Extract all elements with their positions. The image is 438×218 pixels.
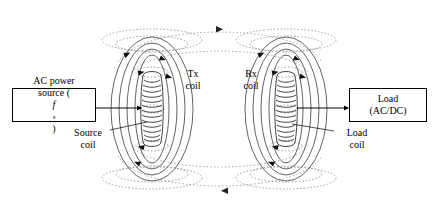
tx-solenoid-outline-left: [141, 76, 143, 142]
rx-turn-7: [276, 110, 296, 112]
tx-turn-6: [142, 105, 162, 107]
rx-turn-11: [277, 130, 295, 132]
rx-turn-9: [276, 120, 296, 122]
tx-solenoid-outline-right: [161, 76, 163, 142]
ac-power-source-line1: AC power: [33, 75, 74, 87]
rx-turn-13: [278, 139, 294, 141]
leader-lines: [110, 122, 334, 131]
tx-turn-13: [144, 139, 160, 141]
rx-field-loop-2: [253, 43, 319, 175]
rx-turn-12: [278, 135, 294, 137]
rx-coil-label-line2: coil: [236, 80, 266, 92]
tx-coil-label-line1: Tx: [178, 68, 208, 80]
tx-turn-11: [143, 130, 161, 132]
tx-turn-1: [144, 80, 160, 82]
tx-ellipse-bottom-mid: [116, 166, 188, 182]
rx-solenoid-cap-bottom: [277, 142, 295, 147]
tx-turn-3: [143, 90, 161, 92]
rx-perspective-ellipses: [236, 29, 336, 189]
load-coil-label-line2: coil: [337, 139, 377, 151]
ac-power-source-block[interactable]: AC power source (fs): [12, 88, 96, 122]
tx-inner-solenoid: [141, 72, 164, 147]
tx-arrow-bot-b: [133, 159, 141, 166]
rx-field-loop-1: [245, 37, 327, 181]
tx-turn-12: [144, 135, 160, 137]
rx-turn-1: [278, 80, 294, 82]
tx-perspective-ellipses: [102, 29, 202, 189]
rx-solenoid-outline-left: [275, 76, 277, 142]
rx-coil-label-line1: Rx: [236, 68, 266, 80]
rx-turn-6: [276, 105, 296, 107]
load-coil-label-line1: Load: [337, 127, 377, 139]
rx-turn-2: [277, 85, 295, 87]
arrow-bottom-mid: [221, 188, 228, 194]
tx-field-lines: [111, 37, 193, 181]
coupling-arc-bottom-inner: [132, 146, 308, 167]
tx-coil-label: Tx coil: [178, 68, 208, 91]
source-coil-label: Source coil: [62, 127, 114, 150]
rx-solenoid-outline-right: [295, 76, 297, 142]
rx-turn-10: [277, 125, 295, 127]
load-block-line1: Load: [378, 93, 399, 105]
rx-turn-3: [277, 90, 295, 92]
tx-turn-7: [142, 110, 162, 112]
diagram-canvas: AC power source (fs) Load (AC/DC) Tx coi…: [0, 0, 438, 218]
coupling-arc-top-inner: [132, 51, 308, 72]
rx-ellipse-top-wide: [236, 29, 336, 51]
source-coil-label-line1: Source: [62, 127, 114, 139]
rx-turn-4: [276, 95, 296, 97]
tx-coil-label-line2: coil: [178, 80, 208, 92]
rx-turn-5: [276, 100, 296, 102]
tx-arrow-top-a: [138, 69, 146, 76]
rx-turn-8: [276, 115, 296, 117]
tx-ellipse-bottom-wide: [102, 167, 202, 189]
tx-solenoid-cap-top: [143, 72, 161, 77]
rx-arrow-top-a: [272, 69, 280, 76]
tx-coil-group: [102, 29, 202, 189]
tx-turn-2: [143, 85, 161, 87]
tx-turn-10: [143, 125, 161, 127]
load-block[interactable]: Load (AC/DC): [349, 88, 427, 122]
tx-field-loop-1: [111, 37, 193, 181]
arrow-top-mid: [216, 26, 223, 32]
load-coil-leader: [292, 124, 334, 131]
tx-field-loop-2: [119, 43, 185, 175]
tx-turn-9: [142, 120, 162, 122]
rx-coil-group: [236, 29, 336, 189]
rx-ellipse-bottom-wide: [236, 167, 336, 189]
source-coil-label-line2: coil: [62, 139, 114, 151]
rx-inner-solenoid: [275, 72, 298, 147]
rx-coil-label: Rx coil: [236, 68, 266, 91]
tx-turn-4: [142, 95, 162, 97]
tx-turn-5: [142, 100, 162, 102]
rx-field-lines: [245, 37, 327, 181]
coupling-flux-loops: [118, 32, 322, 186]
tx-turn-8: [142, 115, 162, 117]
rx-solenoid-cap-top: [277, 72, 295, 77]
tx-ellipse-top-wide: [102, 29, 202, 51]
load-coil-label: Load coil: [337, 127, 377, 150]
rx-ellipse-bottom-mid: [250, 166, 322, 182]
tx-solenoid-cap-bottom: [143, 142, 161, 147]
load-block-line2: (AC/DC): [369, 105, 406, 117]
